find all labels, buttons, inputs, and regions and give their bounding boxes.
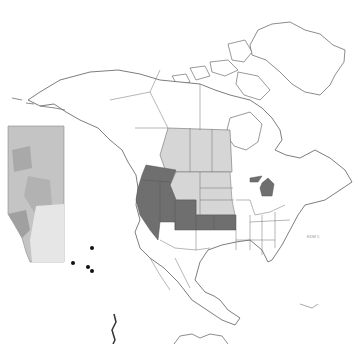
bottom-fragment-right — [174, 334, 228, 344]
occurrence-point — [90, 269, 94, 273]
bottom-fragment-left — [112, 314, 116, 344]
alberta-inset — [8, 126, 94, 273]
map-credit: EDM 5 — [307, 234, 319, 239]
occurrence-point — [90, 246, 94, 250]
occurrence-point — [86, 265, 90, 269]
occurrence-point — [71, 261, 75, 265]
north-america-map — [0, 0, 358, 344]
alberta-saskatchewan-manitoba — [160, 128, 232, 172]
